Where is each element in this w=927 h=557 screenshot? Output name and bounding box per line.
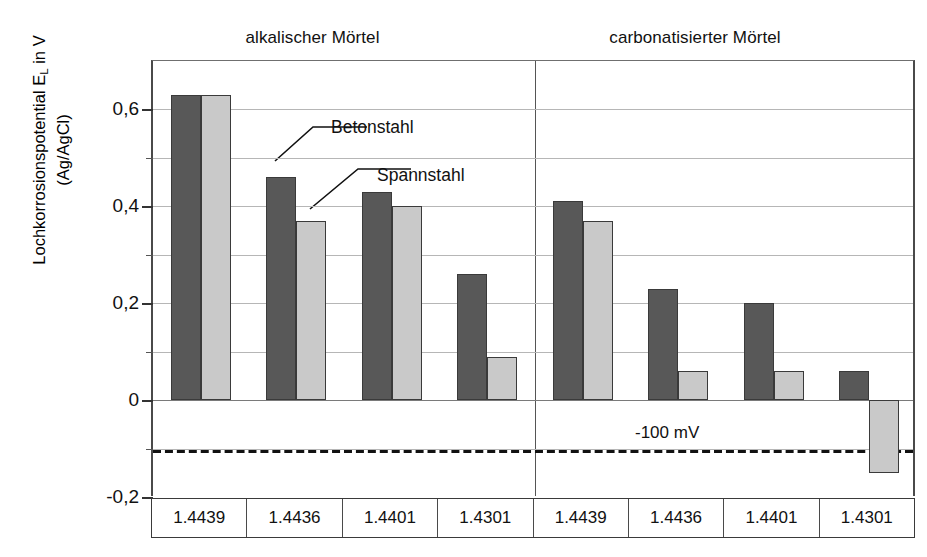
group-title-alkaline: alkalischer Mörtel bbox=[155, 28, 470, 48]
y-axis-label: Lochkorrosionspotential EL in V (Ag/AgCl… bbox=[30, 0, 70, 375]
y-axis-label-text: Lochkorrosionspotential E bbox=[30, 75, 48, 265]
category-cell: 1.4401 bbox=[724, 499, 819, 537]
y-axis-label-line2: (Ag/AgCl) bbox=[54, 0, 73, 375]
reference-line-label: -100 mV bbox=[635, 423, 699, 443]
zero-line bbox=[153, 400, 913, 401]
category-cell: 1.4301 bbox=[820, 499, 914, 537]
category-cell: 1.4439 bbox=[152, 499, 247, 537]
category-cell: 1.4301 bbox=[438, 499, 533, 537]
series-label-spannstahl: Spannstahl bbox=[377, 165, 465, 186]
bar-betonstahl-1.4436-1 bbox=[266, 177, 296, 400]
y-tick-minor bbox=[146, 158, 153, 159]
bar-betonstahl-1.4301-3 bbox=[457, 274, 487, 400]
category-cell: 1.4401 bbox=[343, 499, 438, 537]
bar-spannstahl-1.4436-5 bbox=[678, 371, 708, 400]
y-tick-label: 0,6 bbox=[113, 98, 139, 120]
y-tick-minor bbox=[146, 352, 153, 353]
bar-betonstahl-1.4439-0 bbox=[171, 95, 201, 400]
category-cell: 1.4439 bbox=[534, 499, 629, 537]
y-tick-minor bbox=[146, 449, 153, 450]
plot-area: -100 mV Betonstahl Spannstahl -0,200,20,… bbox=[151, 60, 915, 496]
bar-betonstahl-1.4436-5 bbox=[648, 289, 678, 400]
chart-figure: alkalischer Mörtel carbonatisierter Mört… bbox=[0, 0, 927, 557]
bar-betonstahl-1.4439-4 bbox=[553, 201, 583, 400]
category-axis-table: 1.44391.44361.44011.43011.44391.44361.44… bbox=[151, 498, 915, 538]
y-tick-label: 0,4 bbox=[113, 195, 139, 217]
gridline-major bbox=[153, 109, 913, 110]
bar-spannstahl-1.4436-1 bbox=[296, 221, 326, 400]
y-tick-major bbox=[142, 400, 153, 402]
group-title-carbonated: carbonatisierter Mörtel bbox=[475, 28, 915, 48]
bar-spannstahl-1.4301-3 bbox=[487, 357, 517, 401]
y-tick-major bbox=[142, 303, 153, 305]
y-tick-minor bbox=[146, 255, 153, 256]
bar-spannstahl-1.4439-0 bbox=[201, 95, 231, 400]
bar-betonstahl-1.4401-6 bbox=[744, 303, 774, 400]
y-tick-label: 0 bbox=[128, 389, 139, 411]
bar-spannstahl-1.4401-6 bbox=[774, 371, 804, 400]
y-tick-major bbox=[142, 109, 153, 111]
category-cell: 1.4436 bbox=[247, 499, 342, 537]
y-tick-label: -0,2 bbox=[106, 486, 139, 508]
y-axis-label-unit: in V bbox=[30, 35, 48, 68]
category-cell: 1.4436 bbox=[629, 499, 724, 537]
bar-spannstahl-1.4401-2 bbox=[392, 206, 422, 400]
group-divider bbox=[535, 61, 536, 496]
bar-betonstahl-1.4401-2 bbox=[362, 192, 392, 400]
bar-betonstahl-1.4301-7 bbox=[839, 371, 869, 400]
y-axis-label-subscript: L bbox=[38, 68, 50, 74]
bar-spannstahl-1.4301-7 bbox=[869, 400, 899, 473]
y-tick-label: 0,2 bbox=[113, 292, 139, 314]
y-axis-label-line1: Lochkorrosionspotential EL in V bbox=[30, 0, 54, 375]
gridline-minor bbox=[153, 158, 913, 159]
bar-spannstahl-1.4439-4 bbox=[583, 221, 613, 400]
y-tick-major bbox=[142, 206, 153, 208]
series-label-betonstahl: Betonstahl bbox=[331, 117, 414, 138]
gridline-minor bbox=[153, 449, 913, 450]
